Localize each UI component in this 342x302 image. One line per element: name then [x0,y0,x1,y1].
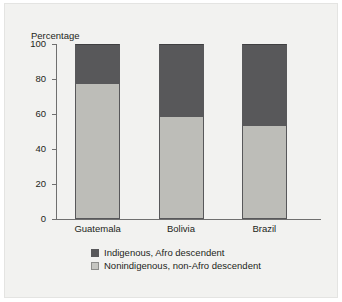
bar-guatemala [75,44,120,219]
y-axis-tick-label: 60 [16,108,46,119]
plot-area [56,44,306,219]
bar-brazil [242,44,287,219]
legend-label: Nonindigenous, non-Afro descendent [104,260,261,271]
y-axis-tick-label: 40 [16,143,46,154]
legend-label: Indigenous, Afro descendent [104,247,224,258]
chart-figure: Percentage 020406080100 GuatemalaBolivia… [4,3,338,298]
y-axis-tick-label: 20 [16,178,46,189]
bar-bolivia [159,44,204,219]
legend-item[interactable]: Indigenous, Afro descendent [5,247,339,258]
bar-segment-indigenous [75,44,120,83]
chart-legend: Indigenous, Afro descendentNonindigenous… [5,247,339,273]
y-axis-tick-label: 100 [16,38,46,49]
bar-segment-nonindigenous [159,116,204,219]
dark-gray-swatch [91,249,99,257]
y-axis-tick [52,219,57,220]
light-gray-swatch [91,262,99,270]
bar-segment-indigenous [159,44,204,116]
x-axis-line [56,219,321,220]
bar-segment-indigenous [242,44,287,125]
x-axis-label-guatemala: Guatemala [53,223,143,234]
bar-segment-nonindigenous [75,83,120,220]
bar-segment-nonindigenous [242,125,287,220]
y-axis-tick-label: 80 [16,73,46,84]
y-axis-tick-label: 0 [16,213,46,224]
legend-item[interactable]: Nonindigenous, non-Afro descendent [5,260,339,271]
x-axis-label-bolivia: Bolivia [136,223,226,234]
x-axis-label-brazil: Brazil [219,223,309,234]
